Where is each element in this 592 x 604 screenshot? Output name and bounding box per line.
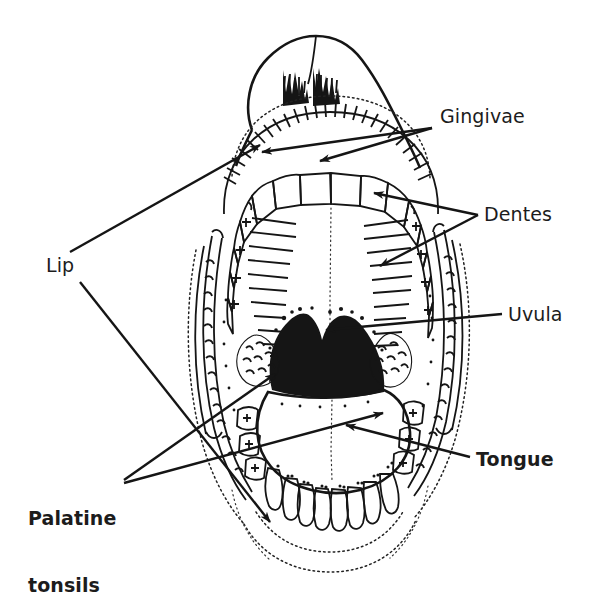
label-lip: Lip bbox=[46, 254, 74, 276]
leader-lip-upper bbox=[70, 145, 260, 252]
label-palatine-tonsils-line2: tonsils bbox=[28, 574, 116, 596]
oropharynx-uvula bbox=[268, 306, 384, 397]
label-gingivae: Gingivae bbox=[440, 105, 525, 127]
leader-dentes-1 bbox=[374, 193, 478, 215]
nostril-shading bbox=[283, 68, 340, 106]
label-dentes: Dentes bbox=[484, 203, 552, 225]
leader-tonsil-right bbox=[124, 413, 383, 483]
label-palatine-tonsils-line1: Palatine bbox=[28, 507, 116, 529]
tongue-median-sulcus bbox=[331, 400, 332, 480]
buccal-fold-left bbox=[188, 230, 252, 524]
lower-dental-arch bbox=[237, 401, 424, 530]
buccal-fold-right bbox=[408, 224, 469, 518]
anatomy-figure: Gingivae Dentes Uvula Tongue Lip Palatin… bbox=[0, 0, 592, 604]
label-tongue: Tongue bbox=[476, 448, 554, 470]
label-palatine-tonsils: Palatine tonsils bbox=[28, 462, 116, 604]
leader-tonsil-left bbox=[124, 374, 275, 480]
label-uvula: Uvula bbox=[508, 303, 563, 325]
